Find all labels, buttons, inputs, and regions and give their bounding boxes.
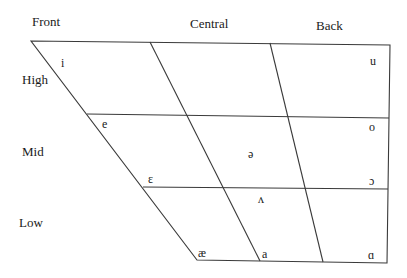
vowel-chart: Front Central Back High Mid Low i u e o … [0,0,407,278]
vowel-open-o: ɔ [369,174,374,188]
mid-low-divider [143,187,388,189]
row-label-high: High [22,72,49,87]
column-label-front: Front [32,14,61,29]
vowel-a: a [262,247,268,261]
vowel-trapezoid-outline [31,41,390,263]
row-label-mid: Mid [22,144,44,159]
column-label-back: Back [316,18,343,33]
vowel-ash: æ [198,246,206,260]
column-label-central: Central [190,16,229,31]
high-mid-divider [87,114,389,118]
front-central-divider [150,42,260,261]
vowel-schwa: ə [248,147,253,161]
vowel-o: o [369,120,375,134]
vowel-u: u [370,54,376,68]
vowel-open-e: ɛ [148,172,153,186]
row-label-low: Low [19,215,43,230]
vowel-wedge: ʌ [258,192,264,206]
vowel-script-a: ɑ [368,248,374,262]
vowel-e: e [102,117,107,131]
vowel-i: i [61,56,65,70]
central-back-divider [270,43,323,262]
